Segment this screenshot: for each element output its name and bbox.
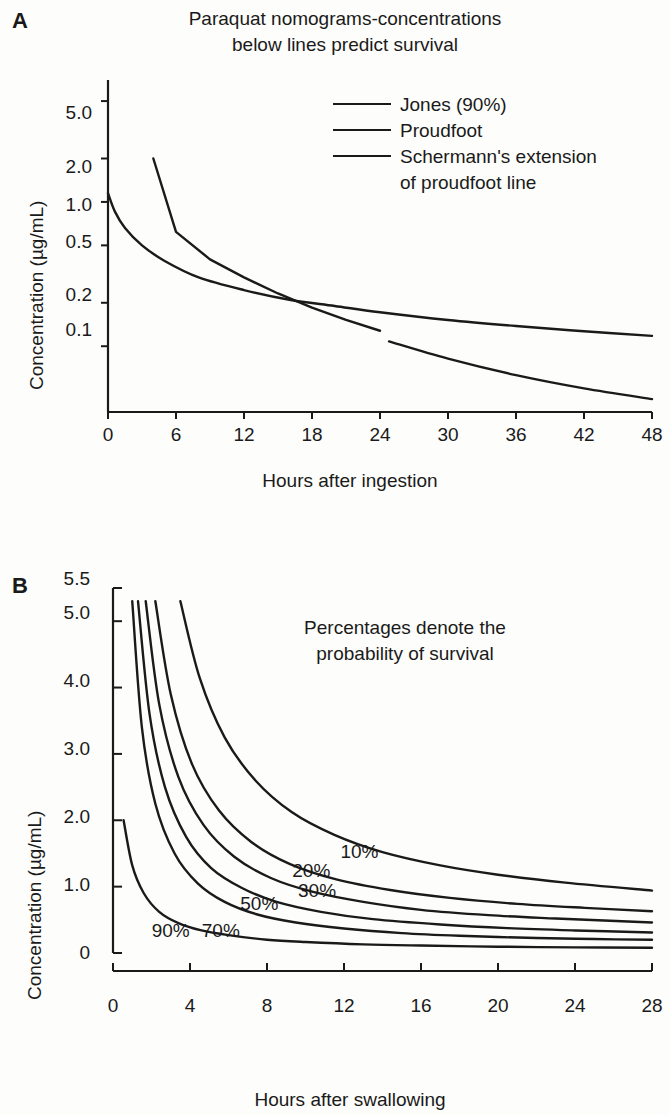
panel-b-plot — [0, 555, 670, 1115]
panel-a: A Paraquat nomograms-concentrations belo… — [0, 0, 670, 510]
paraquat-nomogram-figure: A Paraquat nomograms-concentrations belo… — [0, 0, 670, 1115]
panel-a-plot — [0, 0, 670, 510]
panel-b: B Percentages denote the probability of … — [0, 555, 670, 1115]
